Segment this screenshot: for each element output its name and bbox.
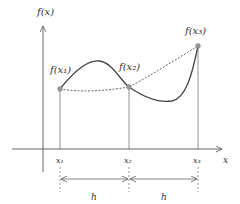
point-label-3: f(x₃) <box>184 25 206 36</box>
interpolation-diagram: f(x) x f(x₁) f(x₂) f(x₃) x₁ x₂ x₃ h h <box>0 0 240 204</box>
x2-label: x₂ <box>124 156 132 165</box>
x1-label: x₁ <box>56 156 64 165</box>
h-label-1: h <box>91 192 97 202</box>
point-label-1: f(x₁) <box>49 64 71 75</box>
x-axis-label: x <box>223 155 228 165</box>
point-x2 <box>127 85 132 90</box>
point-x3 <box>196 44 201 49</box>
point-label-2: f(x₂) <box>118 61 140 72</box>
y-axis-label: f(x) <box>36 6 54 17</box>
h-label-2: h <box>161 192 167 202</box>
x3-label: x₃ <box>193 156 201 165</box>
point-x1 <box>58 87 63 92</box>
